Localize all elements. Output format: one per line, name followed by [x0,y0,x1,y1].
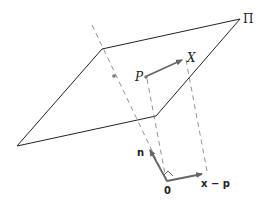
point-p-label: P [134,70,144,84]
dashed-p-projection [147,79,166,179]
plane-pi [17,19,240,146]
dashed-x-projection [186,60,207,171]
normal-vector-n [150,150,167,181]
foot-point [112,74,116,78]
plane-label: Π [243,12,253,26]
arrow-p-to-x [147,60,182,76]
normal-label: n [137,147,144,158]
vector-label: x − p [201,178,230,189]
point-x-label: X [186,51,196,65]
plane-normal-diagram: Π P X n x − p 0 [0,0,265,210]
origin-label: 0 [164,185,171,196]
right-angle-mark [164,171,173,176]
